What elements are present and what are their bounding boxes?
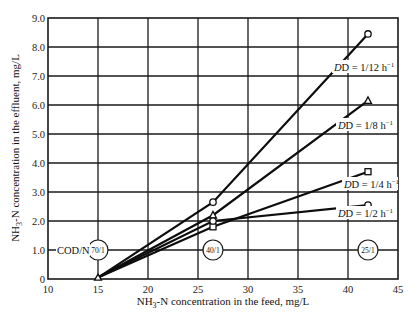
ratio-marker-40: 40/1 bbox=[203, 240, 223, 260]
y-tick-label: 5.0 bbox=[32, 129, 45, 140]
y-tick-label: 0 bbox=[40, 274, 45, 285]
ratio-marker-25: 25/1 bbox=[358, 240, 378, 260]
svg-text:DD = 1/8 h−1: DD = 1/8 h−1 bbox=[337, 119, 394, 131]
d8-text: D = 1/8 h bbox=[346, 120, 387, 131]
series-label-d8: DD = 1/8 h−1 bbox=[336, 118, 396, 131]
ratio-40-text: 40/1 bbox=[206, 246, 220, 255]
series-line-3 bbox=[98, 205, 368, 277]
y-axis-ticks: 01.02.03.04.05.06.07.08.09.0 bbox=[32, 13, 45, 285]
d4-text: D = 1/4 h bbox=[352, 179, 393, 190]
series-label-d4: DD = 1/4 h−1 bbox=[342, 177, 400, 190]
circle-marker bbox=[365, 31, 371, 37]
x-tick-label: 35 bbox=[293, 284, 304, 295]
d2-exp: −1 bbox=[386, 207, 394, 215]
data-series bbox=[95, 31, 372, 280]
d8-exp: −1 bbox=[386, 119, 394, 127]
chart-canvas: 1015202530354045 01.02.03.04.05.06.07.08… bbox=[0, 0, 418, 322]
x-axis-ticks: 1015202530354045 bbox=[43, 284, 404, 295]
circle-marker bbox=[210, 218, 216, 224]
series-label-d2: DD = 1/2 h−1 bbox=[336, 206, 396, 219]
x-tick-label: 25 bbox=[193, 284, 204, 295]
ratio-marker-70: 70/1 bbox=[88, 240, 108, 260]
cod-n-label: COD/N bbox=[57, 245, 90, 256]
x-tick-label: 45 bbox=[393, 284, 404, 295]
d12-text: D = 1/12 h bbox=[342, 62, 388, 73]
d12-exp: −1 bbox=[387, 61, 395, 69]
series-line-0 bbox=[98, 34, 368, 278]
x-tick-label: 40 bbox=[343, 284, 354, 295]
series-line-2 bbox=[98, 172, 368, 278]
svg-text:DD = 1/2 h−1: DD = 1/2 h−1 bbox=[337, 207, 394, 219]
y-tick-label: 8.0 bbox=[32, 42, 45, 53]
x-tick-label: 15 bbox=[93, 284, 104, 295]
y-tick-label: 3.0 bbox=[32, 187, 45, 198]
svg-text:DD = 1/4 h−1: DD = 1/4 h−1 bbox=[343, 178, 400, 190]
y-tick-label: 1.0 bbox=[32, 245, 45, 256]
d2-text: D = 1/2 h bbox=[346, 208, 387, 219]
ratio-70-text: 70/1 bbox=[91, 246, 105, 255]
x-axis-title: NH3-N concentration in the feed, mg/L bbox=[137, 295, 310, 310]
y-tick-label: 6.0 bbox=[32, 100, 45, 111]
x-tick-label: 10 bbox=[43, 284, 54, 295]
y-tick-label: 2.0 bbox=[32, 216, 45, 227]
circle-marker bbox=[210, 199, 216, 205]
ratio-25-text: 25/1 bbox=[361, 246, 375, 255]
series-label-d12: DD = 1/12 h−1 bbox=[332, 60, 396, 73]
y-axis-title: NH3-N concentration in the effluent, mg/… bbox=[9, 54, 24, 242]
triangle-marker bbox=[365, 97, 372, 104]
y-tick-label: 7.0 bbox=[32, 71, 45, 82]
svg-text:DD = 1/12 h−1: DD = 1/12 h−1 bbox=[333, 61, 395, 73]
x-tick-label: 30 bbox=[243, 284, 254, 295]
y-tick-label: 4.0 bbox=[32, 158, 45, 169]
y-tick-label: 9.0 bbox=[32, 13, 45, 24]
d4-exp: −1 bbox=[392, 178, 400, 186]
square-marker bbox=[365, 169, 371, 175]
x-tick-label: 20 bbox=[143, 284, 154, 295]
